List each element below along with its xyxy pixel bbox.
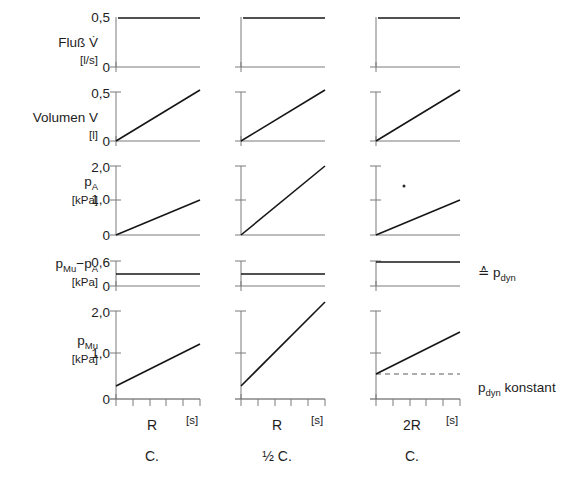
row-unit-volume: [l] <box>89 129 98 141</box>
panel-volume-col3 <box>370 90 460 146</box>
column-label-top-col3: 2R <box>403 417 421 433</box>
annotation-p-dyn-equivalent: ≙ pdyn <box>478 265 516 283</box>
panel-pa-col3 <box>370 166 460 235</box>
row-label-flow: Fluß V̇ <box>58 35 98 50</box>
ytick-flow-top: 0,5 <box>91 10 110 25</box>
panel-diff-col2 <box>235 261 325 291</box>
data-point-marker <box>403 185 406 188</box>
row-pmu: pMu [kPa] 2,0 1,0 0 <box>72 302 556 407</box>
ytick-diff-top: 0,6 <box>91 255 110 270</box>
row-flow: Fluß V̇ [l/s] 0,5 0 <box>58 10 460 75</box>
panel-diff-col3 <box>370 261 460 291</box>
panel-flow-col1 <box>110 17 200 72</box>
panel-pa-col2 <box>235 166 325 235</box>
ytick-volume-top: 0,5 <box>91 86 110 101</box>
column-captions: [s] [s] [s] R R 2R C. ½ C. C. <box>145 414 458 464</box>
row-unit-pmu-minus-pa: [kPa] <box>72 276 98 288</box>
column-label-top-col2: R <box>272 417 282 433</box>
column-label-top-col1: R <box>147 417 157 433</box>
column-label-bottom-col3: C. <box>405 448 419 464</box>
panel-pmu-col3 <box>370 311 460 406</box>
ytick-flow-zero: 0 <box>102 60 110 75</box>
panel-volume-col2 <box>235 90 325 146</box>
x-unit-col1: [s] <box>186 414 198 426</box>
ytick-pa-zero: 0 <box>102 228 110 243</box>
panel-pmu-col1 <box>110 311 200 406</box>
figure-canvas: Fluß V̇ [l/s] 0,5 0 Volumen V [l] 0, <box>0 0 582 478</box>
x-unit-col2: [s] <box>311 414 323 426</box>
ytick-diff-zero: 0 <box>102 279 110 294</box>
column-label-bottom-col2: ½ C. <box>262 448 292 464</box>
ytick-pmu-zero: 0 <box>102 392 110 407</box>
row-pmu-minus-pa: pMu−pA [kPa] 0,6 0 ≙ pdyn <box>56 255 516 294</box>
column-label-bottom-col1: C. <box>145 448 159 464</box>
ytick-pa-top: 2,0 <box>91 160 110 175</box>
row-label-volume: Volumen V <box>33 110 98 125</box>
panel-diff-col1 <box>110 261 200 291</box>
panel-volume-col1 <box>110 90 200 146</box>
ytick-pmu-top: 2,0 <box>91 305 110 320</box>
row-unit-flow: [l/s] <box>80 54 98 66</box>
row-volume: Volumen V [l] 0,5 0 <box>33 86 460 149</box>
panel-flow-col3 <box>370 17 460 72</box>
row-pa: pA [kPa] 2,0 1,0 0 <box>72 160 460 243</box>
chart-svg: Fluß V̇ [l/s] 0,5 0 Volumen V [l] 0, <box>0 0 582 478</box>
ytick-volume-zero: 0 <box>102 134 110 149</box>
x-unit-col3: [s] <box>446 414 458 426</box>
annotation-p-dyn-konstant: pdyn konstant <box>478 380 556 398</box>
panel-flow-col2 <box>235 17 325 72</box>
ytick-pa-mid: 1,0 <box>91 192 110 207</box>
row-label-pa: pA <box>84 174 99 192</box>
panel-pmu-col2 <box>235 302 325 406</box>
ytick-pmu-mid: 1,0 <box>91 346 110 361</box>
panel-pa-col1 <box>110 166 200 235</box>
